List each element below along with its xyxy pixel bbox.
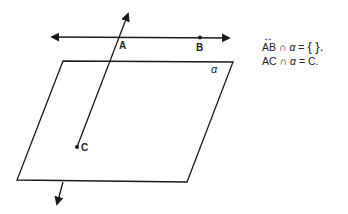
plane-alpha [17,61,233,182]
line-ac-lower [57,182,63,204]
geometry-figure [0,0,348,214]
equation-ab: AB ∩ α = { }. [262,39,323,54]
point-b-dot [198,36,202,40]
label-c: C [81,142,88,153]
equation-ac: AC ∩ α = C. [262,55,318,67]
point-c-dot [75,145,79,149]
label-alpha: α [211,63,217,75]
line-ac-upper [77,14,128,147]
label-b: B [196,42,203,53]
line-ab [52,37,229,38]
empty-set: { }. [307,39,323,54]
line-ab-notation: AB [262,41,276,53]
label-a: A [119,40,126,51]
